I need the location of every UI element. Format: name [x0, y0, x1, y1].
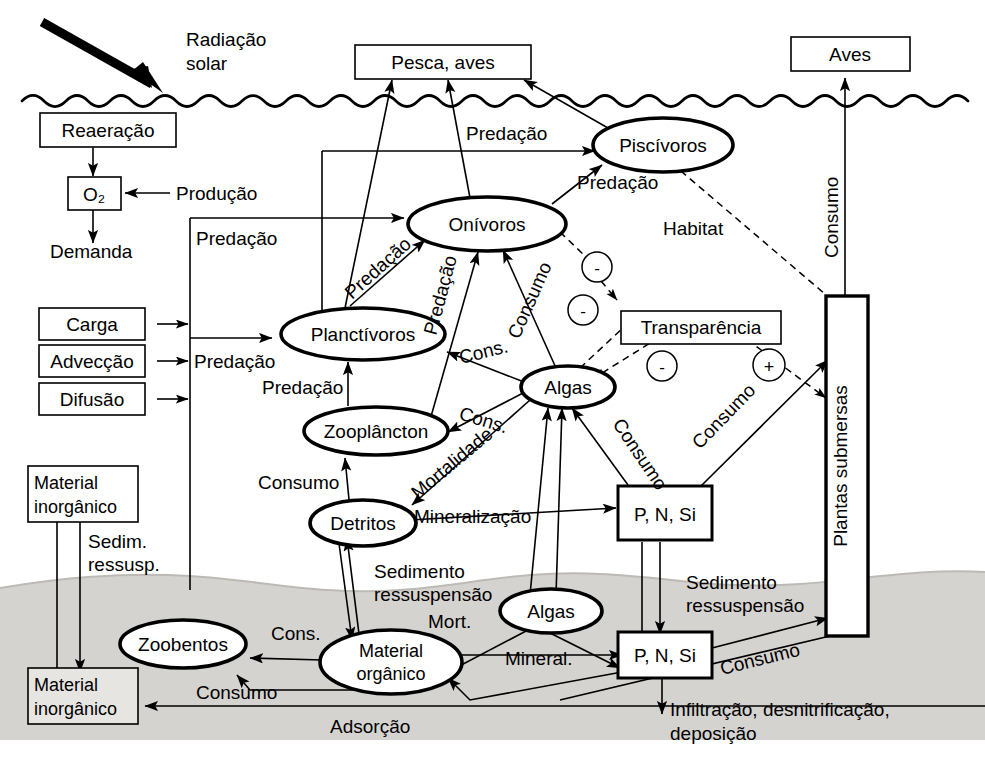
material-inorganico-top-line1: Material: [34, 473, 98, 493]
node-material-inorganico-bottom[interactable]: Material inorgânico: [28, 668, 138, 724]
label-predacao-planctivoros: Predação: [262, 377, 343, 398]
label-consumo-algas-pnsi: Consumo: [609, 414, 672, 493]
label-predacao-piscivoros: Predação: [466, 123, 547, 144]
carga-label: Carga: [66, 314, 118, 335]
label-consumo-onivoros-algas: Consumo: [503, 259, 555, 342]
node-pnsi-sediment[interactable]: P, N, Si: [618, 632, 712, 678]
label-mineralizacao: Mineralização: [414, 506, 531, 527]
reaeracao-label: Reaeração: [62, 120, 155, 141]
o2-label: O₂: [83, 184, 105, 205]
difusao-label: Difusão: [60, 389, 124, 410]
pnsi-sediment-label: P, N, Si: [634, 645, 696, 666]
label-consumo-zooplancton-detritos: Consumo: [258, 472, 339, 493]
pesca-aves-label: Pesca, aves: [391, 52, 495, 73]
label-predacao-diag-2: Predação: [420, 253, 461, 337]
adveccao-label: Advecção: [50, 351, 133, 372]
label-predacao-left: Predação: [196, 228, 277, 249]
node-zoobentos[interactable]: Zoobentos: [120, 620, 246, 668]
onivoros-label: Onívoros: [448, 214, 525, 235]
sign-marker-plus-1: +: [753, 349, 785, 381]
water-surface-line: [22, 96, 968, 107]
node-plantas-submersas[interactable]: Plantas submersas: [826, 296, 868, 636]
label-radiacao-solar-1: Radiação: [186, 29, 266, 50]
node-pnsi-water[interactable]: P, N, Si: [618, 486, 712, 540]
label-sedim-1: Sedim.: [88, 531, 147, 552]
material-inorganico-bottom-line1: Material: [34, 675, 98, 695]
node-reaeracao[interactable]: Reaeração: [40, 113, 176, 147]
plus-1-symbol: +: [764, 357, 775, 377]
material-inorganico-bottom-line2: inorgânico: [34, 699, 117, 719]
label-infiltracao-1: Infiltração, desnitrificação,: [670, 699, 890, 720]
minus-1-symbol: -: [594, 259, 600, 278]
solar-radiation-arrow: [42, 22, 163, 93]
label-radiacao-solar-2: solar: [186, 53, 228, 74]
label-mort: Mort.: [428, 611, 471, 632]
label-habitat: Habitat: [663, 218, 724, 239]
label-sed-ress-left-2: ressuspensão: [374, 584, 492, 605]
material-organico-line1: Material: [359, 641, 423, 661]
label-mineral: Mineral.: [505, 648, 573, 669]
sign-marker-minus-2: -: [568, 295, 598, 325]
transparencia-label: Transparência: [641, 317, 762, 338]
planctivoros-label: Planctívoros: [311, 324, 416, 345]
node-pesca-aves[interactable]: Pesca, aves: [355, 45, 531, 79]
node-o2[interactable]: O₂: [68, 177, 121, 210]
node-algas-water[interactable]: Algas: [521, 366, 615, 408]
node-algas-sediment[interactable]: Algas: [500, 589, 602, 633]
node-zooplancton[interactable]: Zooplâncton: [304, 407, 448, 455]
node-material-inorganico-top[interactable]: Material inorgânico: [28, 466, 138, 522]
plantas-submersas-label: Plantas submersas: [830, 385, 851, 547]
label-adsorcao: Adsorção: [330, 716, 410, 737]
label-predacao-carga: Predação: [194, 351, 275, 372]
label-sedim-2: ressusp.: [88, 554, 160, 575]
minus-2-symbol: -: [580, 302, 586, 321]
zoobentos-label: Zoobentos: [138, 634, 228, 655]
label-consumo-zoobentos: Consumo: [196, 682, 277, 703]
diagram-canvas: Pesca, aves Aves Reaeração O₂ Carga Adve…: [0, 0, 985, 766]
label-consumo-plantas-pnsi: Consumo: [688, 380, 760, 453]
algas-water-label: Algas: [544, 377, 592, 398]
label-sed-ress-left-1: Sedimento: [374, 561, 465, 582]
detritos-label: Detritos: [330, 513, 395, 534]
aves-label: Aves: [829, 44, 871, 65]
piscivoros-label: Piscívoros: [619, 135, 707, 156]
node-difusao[interactable]: Difusão: [39, 383, 145, 415]
label-predacao-diag-1: Predação: [341, 233, 416, 303]
pnsi-water-label: P, N, Si: [634, 504, 696, 525]
node-planctivoros[interactable]: Planctívoros: [281, 308, 445, 360]
label-producao: Produção: [176, 183, 257, 204]
material-organico-line2: orgânico: [356, 664, 425, 684]
label-consumo-aves: Consumo: [821, 177, 842, 258]
zooplancton-label: Zooplâncton: [324, 421, 429, 442]
label-sed-ress-right-2: ressuspensão: [686, 595, 804, 616]
sign-marker-minus-3: -: [647, 351, 677, 381]
node-adveccao[interactable]: Advecção: [39, 345, 145, 377]
label-cons-algas-planctivoros: Cons.: [457, 335, 510, 367]
node-piscivoros[interactable]: Piscívoros: [593, 118, 733, 172]
node-transparencia[interactable]: Transparência: [621, 311, 781, 344]
node-aves[interactable]: Aves: [791, 37, 910, 71]
node-carga[interactable]: Carga: [39, 308, 145, 340]
algas-sediment-label: Algas: [527, 601, 575, 622]
node-onivoros[interactable]: Onívoros: [408, 197, 566, 251]
material-inorganico-top-line2: inorgânico: [34, 497, 117, 517]
label-cons-zoobentos: Cons.: [271, 623, 321, 644]
label-infiltracao-2: deposição: [670, 723, 757, 744]
label-demanda: Demanda: [50, 241, 133, 262]
node-material-organico[interactable]: Material orgânico: [320, 630, 462, 694]
label-predacao-onivoros: Predação: [577, 172, 658, 193]
minus-3-symbol: -: [659, 358, 665, 377]
sign-marker-minus-1: -: [582, 252, 612, 282]
label-sed-ress-right-1: Sedimento: [686, 572, 777, 593]
node-detritos[interactable]: Detritos: [310, 500, 416, 546]
